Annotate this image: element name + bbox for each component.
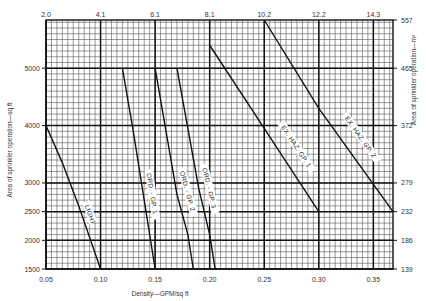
top-tick-label: 2.0 bbox=[41, 11, 51, 18]
y-axis-ticks: 150020002500300040005000 bbox=[24, 65, 46, 273]
right-tick-label: 186 bbox=[401, 237, 413, 244]
x-tick-label: 0.10 bbox=[94, 276, 108, 283]
top-tick-label: 14.3 bbox=[367, 11, 381, 18]
x-axis-ticks: 0.050.100.150.200.250.300.35 bbox=[39, 276, 380, 283]
plot-frame bbox=[46, 20, 393, 269]
right-tick-label: 279 bbox=[401, 179, 413, 186]
major-grid bbox=[46, 20, 393, 269]
x-tick-label: 0.35 bbox=[367, 276, 381, 283]
y-tick-label: 2500 bbox=[24, 208, 40, 215]
y-axis-label: Area of sprinkler operation—sq ft bbox=[6, 102, 14, 197]
y-tick-label: 5000 bbox=[24, 65, 40, 72]
top-tick-label: 4.1 bbox=[96, 11, 106, 18]
y-tick-label: 4000 bbox=[24, 122, 40, 129]
right-axis-label: Area of sprinkler operation—m² bbox=[410, 34, 418, 125]
top-axis-ticks: 2.04.16.18.110.212.214.3 bbox=[41, 11, 380, 18]
x-tick-label: 0.05 bbox=[39, 276, 53, 283]
top-tick-label: 6.1 bbox=[150, 11, 160, 18]
curve-label: ORD. - GP. 1 bbox=[146, 172, 159, 214]
minor-grid bbox=[46, 20, 393, 269]
right-tick-label: 232 bbox=[401, 208, 413, 215]
y-tick-label: 3000 bbox=[24, 179, 40, 186]
top-tick-label: 12.2 bbox=[312, 11, 326, 18]
x-tick-label: 0.30 bbox=[312, 276, 326, 283]
top-tick-label: 10.2 bbox=[257, 11, 271, 18]
density-area-curves bbox=[46, 20, 393, 269]
x-tick-label: 0.20 bbox=[203, 276, 217, 283]
sprinkler-density-area-chart: LIGHTORD. - GP. 1ORD. - GP. 2ORD. - GP. … bbox=[0, 0, 426, 301]
x-axis-label: Density—GPM/sq ft bbox=[131, 290, 188, 298]
right-tick-label: 557 bbox=[401, 17, 413, 24]
y-tick-label: 1500 bbox=[24, 266, 40, 273]
x-tick-label: 0.25 bbox=[257, 276, 271, 283]
y-tick-label: 2000 bbox=[24, 237, 40, 244]
curve-labels: LIGHTORD. - GP. 1ORD. - GP. 2ORD. - GP. … bbox=[82, 111, 382, 225]
right-tick-label: 139 bbox=[401, 266, 413, 273]
x-tick-label: 0.15 bbox=[148, 276, 162, 283]
top-tick-label: 8.1 bbox=[205, 11, 215, 18]
